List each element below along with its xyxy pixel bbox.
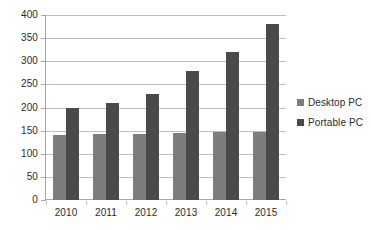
y-tick-mark bbox=[41, 177, 46, 178]
y-tick-label: 250 bbox=[4, 79, 38, 89]
legend-item-portable-pc[interactable]: Portable PC bbox=[297, 117, 371, 128]
x-tick-label: 2014 bbox=[206, 207, 246, 218]
x-tick-label: 2013 bbox=[166, 207, 206, 218]
bar-portable-pc-2012 bbox=[146, 94, 159, 200]
bar-chart: 050100150200250300350400 201020112012201… bbox=[0, 0, 371, 230]
x-tick-mark bbox=[166, 201, 167, 205]
bar-portable-pc-2015 bbox=[266, 24, 279, 200]
x-tick-mark bbox=[286, 201, 287, 205]
legend-swatch-icon bbox=[297, 99, 304, 106]
x-tick-label: 2011 bbox=[86, 207, 126, 218]
y-tick-label: 400 bbox=[4, 10, 38, 20]
x-tick-label: 2012 bbox=[126, 207, 166, 218]
bar-group-2012 bbox=[133, 15, 159, 200]
y-tick-mark bbox=[41, 15, 46, 16]
gridline-300 bbox=[46, 61, 286, 62]
x-tick-label: 2015 bbox=[246, 207, 286, 218]
bar-desktop-pc-2013 bbox=[173, 133, 186, 200]
y-tick-mark bbox=[41, 84, 46, 85]
bar-desktop-pc-2015 bbox=[253, 132, 266, 200]
bar-group-2010 bbox=[53, 15, 79, 200]
gridline-50 bbox=[46, 177, 286, 178]
x-tick-label: 2010 bbox=[46, 207, 86, 218]
gridline-0 bbox=[46, 199, 286, 200]
legend-item-desktop-pc[interactable]: Desktop PC bbox=[297, 97, 371, 108]
bar-portable-pc-2010 bbox=[66, 108, 79, 201]
bar-desktop-pc-2012 bbox=[133, 134, 146, 200]
legend-swatch-icon bbox=[297, 119, 304, 126]
gridline-100 bbox=[46, 154, 286, 155]
bar-group-2011 bbox=[93, 15, 119, 200]
x-tick-mark bbox=[86, 201, 87, 205]
y-tick-label: 100 bbox=[4, 149, 38, 159]
bar-desktop-pc-2011 bbox=[93, 134, 106, 200]
legend-label: Portable PC bbox=[308, 117, 363, 128]
x-tick-mark bbox=[46, 201, 47, 205]
plot-area bbox=[46, 15, 286, 200]
y-tick-label: 50 bbox=[4, 172, 38, 182]
gridline-400 bbox=[46, 15, 286, 16]
bar-desktop-pc-2014 bbox=[213, 132, 226, 200]
bar-group-2014 bbox=[213, 15, 239, 200]
y-tick-label: 200 bbox=[4, 103, 38, 113]
gridline-200 bbox=[46, 108, 286, 109]
gridline-150 bbox=[46, 131, 286, 132]
bar-desktop-pc-2010 bbox=[53, 135, 66, 200]
gridline-250 bbox=[46, 84, 286, 85]
y-tick-label: 300 bbox=[4, 56, 38, 66]
x-tick-mark bbox=[126, 201, 127, 205]
bar-group-2015 bbox=[253, 15, 279, 200]
y-tick-mark bbox=[41, 108, 46, 109]
y-tick-mark bbox=[41, 131, 46, 132]
bar-portable-pc-2011 bbox=[106, 103, 119, 200]
y-tick-mark bbox=[41, 61, 46, 62]
gridline-350 bbox=[46, 38, 286, 39]
y-tick-mark bbox=[41, 38, 46, 39]
chart-legend: Desktop PCPortable PC bbox=[297, 97, 371, 137]
y-tick-label: 0 bbox=[4, 195, 38, 205]
legend-label: Desktop PC bbox=[308, 97, 362, 108]
x-tick-mark bbox=[246, 201, 247, 205]
bar-portable-pc-2014 bbox=[226, 52, 239, 200]
x-tick-mark bbox=[206, 201, 207, 205]
y-tick-label: 350 bbox=[4, 33, 38, 43]
bar-portable-pc-2013 bbox=[186, 71, 199, 201]
y-tick-label: 150 bbox=[4, 126, 38, 136]
y-tick-mark bbox=[41, 154, 46, 155]
bar-group-2013 bbox=[173, 15, 199, 200]
